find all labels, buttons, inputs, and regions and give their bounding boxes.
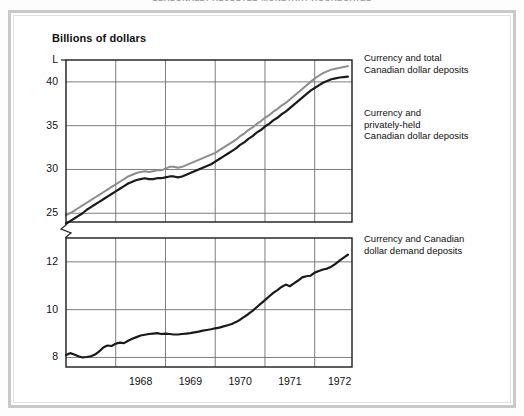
- series-lines: [66, 66, 348, 357]
- y-tick-label-10: 10: [30, 303, 58, 315]
- gridlines: [66, 60, 352, 367]
- legend-item-private: Currency and privately-held Canadian dol…: [364, 107, 469, 142]
- y-tick-label-8: 8: [30, 350, 58, 362]
- legend-item-demand: Currency and Canadian dollar demand depo…: [364, 233, 464, 256]
- y-tick-label-25: 25: [30, 206, 58, 218]
- y-tick-label-35: 35: [30, 119, 58, 131]
- y-tick-label-12: 12: [30, 255, 58, 267]
- y-tick-label-L: L: [30, 53, 58, 65]
- legend-item-total: Currency and total Canadian dollar depos…: [364, 52, 469, 75]
- x-tick-label-1972: 1972: [311, 375, 369, 387]
- figure-root: SEASONALLY ADJUSTED MONETARY AGGREGATES …: [0, 0, 524, 416]
- y-tick-label-40: 40: [30, 75, 58, 87]
- y-tick-label-30: 30: [30, 162, 58, 174]
